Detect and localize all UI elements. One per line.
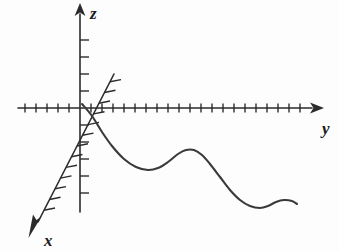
x-axis-line — [38, 74, 114, 222]
plotted-curve — [82, 104, 297, 208]
x-axis-label: x — [43, 231, 53, 250]
x-axis-group: x — [29, 74, 122, 250]
y-axis-label: y — [320, 119, 330, 138]
x-axis-ticks — [44, 80, 121, 211]
x-axis-arrowhead — [29, 215, 42, 239]
y-axis-group: y — [18, 103, 330, 139]
z-axis-label: z — [89, 4, 97, 23]
figure-canvas: y z — [0, 0, 339, 251]
coordinate-axes-diagram: y z — [0, 0, 339, 251]
z-axis-ticks — [80, 40, 89, 193]
